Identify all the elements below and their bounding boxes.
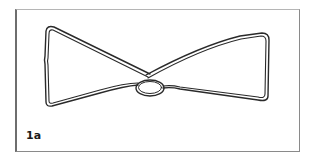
figure-label: 1a	[26, 129, 41, 142]
central-loop-inner	[139, 82, 162, 94]
bow-tie-loop-drawing	[0, 0, 315, 161]
